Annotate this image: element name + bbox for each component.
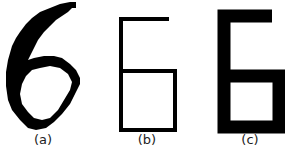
panel-label-b: (b) bbox=[127, 132, 167, 147]
panel-label-c: (c) bbox=[230, 132, 270, 147]
thick-six-shape bbox=[224, 16, 279, 127]
skeleton-six-shape bbox=[121, 19, 175, 130]
panel-label-a: (a) bbox=[23, 132, 63, 147]
digit-figure bbox=[0, 0, 285, 152]
handwritten-six-shape bbox=[6, 2, 80, 130]
